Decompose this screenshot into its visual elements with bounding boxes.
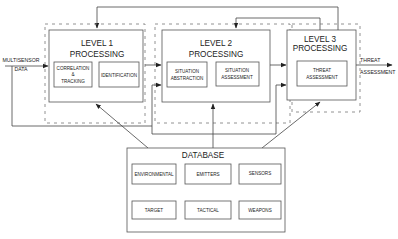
database-title: DATABASE <box>182 151 225 160</box>
ampersand-label: & <box>71 72 74 77</box>
db-weapons-label: WEAPONS <box>248 208 271 213</box>
level3-title: LEVEL 3 <box>304 35 336 44</box>
situation-assessment-label-1: SITUATION <box>225 68 249 73</box>
data-fusion-diagram: LEVEL 1 PROCESSING CORRELATION & TRACKIN… <box>0 0 398 239</box>
identification-label: IDENTIFICATION <box>101 73 137 78</box>
input-label-1: MULTISENSOR <box>2 57 39 63</box>
level2-group: LEVEL 2 PROCESSING SITUATION ABSTRACTION… <box>155 24 290 123</box>
db-tactical-label: TACTICAL <box>197 208 219 213</box>
db-emitters-label: EMITTERS <box>196 172 219 177</box>
output-label-1: THREAT <box>360 57 381 63</box>
level3-subtitle: PROCESSING <box>293 44 348 53</box>
level2-subtitle: PROCESSING <box>189 50 244 59</box>
threat-assessment-label-1: THREAT <box>313 68 331 73</box>
situation-abstraction-label-1: SITUATION <box>175 69 199 74</box>
database-connectors <box>96 102 320 148</box>
output-label-2: ASSESSMENT <box>360 69 396 75</box>
input-label-2: DATA <box>14 66 28 72</box>
situation-abstraction-box <box>167 62 207 87</box>
tracking-label: TRACKING <box>61 79 85 84</box>
threat-assessment-box <box>297 61 347 86</box>
situation-abstraction-label-2: ABSTRACTION <box>171 76 204 81</box>
level2-title: LEVEL 2 <box>200 39 232 48</box>
level1-title: LEVEL 1 <box>81 39 113 48</box>
level3-group: LEVEL 3 PROCESSING THREAT ASSESSMENT <box>287 24 360 112</box>
threat-assessment-label-2: ASSESSMENT <box>306 75 338 80</box>
db-sensors-label: SENSORS <box>249 171 271 176</box>
feedback-connectors <box>97 7 338 30</box>
database-group: DATABASE ENVIRONMENTAL EMITTERS SENSORS … <box>127 148 285 232</box>
situation-assessment-box <box>216 62 259 86</box>
correlation-label: CORRELATION <box>57 66 90 71</box>
db-target-label: TARGET <box>145 208 163 213</box>
db-environmental-label: ENVIRONMENTAL <box>134 172 174 177</box>
level1-subtitle: PROCESSING <box>70 50 125 59</box>
level1-group: LEVEL 1 PROCESSING CORRELATION & TRACKIN… <box>45 24 145 123</box>
situation-assessment-label-2: ASSESSMENT <box>221 75 253 80</box>
